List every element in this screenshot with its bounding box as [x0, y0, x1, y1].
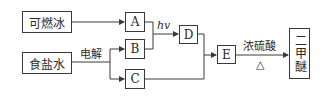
- node-c-label: C: [130, 72, 139, 86]
- edge-label-heat: △: [256, 59, 264, 70]
- node-a: A: [125, 12, 145, 32]
- node-c: C: [125, 69, 145, 89]
- node-d-label: D: [184, 28, 194, 42]
- node-e-label: E: [222, 48, 231, 62]
- edge-label-light: hv: [157, 20, 170, 31]
- node-e: E: [217, 45, 236, 64]
- node-a-label: A: [131, 15, 140, 29]
- node-b-label: B: [131, 42, 140, 56]
- node-dimethyl-ether: 二甲醚: [289, 28, 310, 79]
- edge-label-conc-sulfuric-acid: 浓硫酸: [243, 41, 276, 52]
- node-b: B: [125, 39, 145, 59]
- node-brine: 食盐水: [22, 52, 72, 74]
- node-d: D: [179, 25, 198, 44]
- node-brine-label: 食盐水: [29, 55, 65, 72]
- edge-label-electrolysis: 电解: [80, 49, 102, 60]
- node-combustible-ice: 可燃冰: [22, 11, 72, 33]
- node-combustible-ice-label: 可燃冰: [29, 14, 65, 31]
- node-dimethyl-ether-label: 二甲醚: [291, 34, 308, 73]
